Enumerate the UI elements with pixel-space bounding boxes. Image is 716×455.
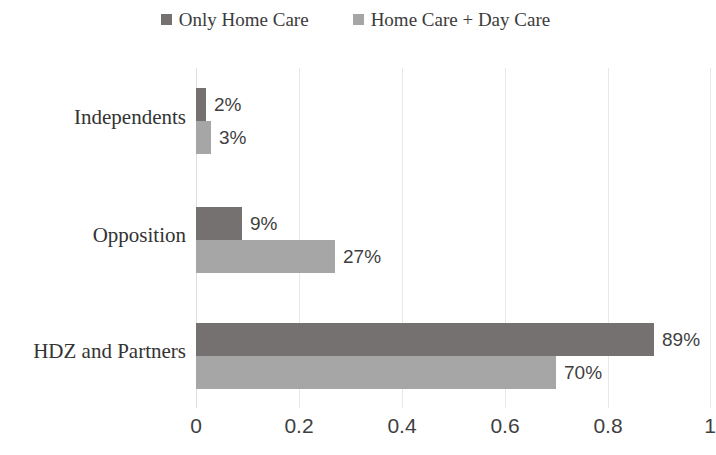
- bar-opposition-only-home-care: [196, 207, 242, 240]
- category-axis: Independents Opposition HDZ and Partners: [0, 68, 186, 408]
- x-tick-label: 0.8: [593, 414, 622, 438]
- bar-hdz-and-partners-home-care-plus-day-care: [196, 356, 556, 389]
- legend-label: Only Home Care: [179, 10, 309, 29]
- x-tick-label: 0: [190, 414, 202, 438]
- gridline: [608, 68, 609, 408]
- value-axis: 0 0.2 0.4 0.6 0.8 1: [196, 410, 711, 450]
- bar-label-opposition-home-care-plus-day-care: 27%: [335, 240, 381, 273]
- bar-label-independents-home-care-plus-day-care: 3%: [211, 121, 246, 154]
- bar-label-independents-only-home-care: 2%: [206, 88, 241, 121]
- bar-hdz-and-partners-only-home-care: [196, 323, 654, 356]
- category-label-independents: Independents: [0, 105, 186, 130]
- bar-independents-only-home-care: [196, 88, 206, 121]
- bar-independents-home-care-plus-day-care: [196, 121, 211, 154]
- category-label-opposition: Opposition: [0, 223, 186, 248]
- bar-label-hdz-and-partners-home-care-plus-day-care: 70%: [556, 356, 602, 389]
- gridline: [710, 68, 711, 408]
- x-tick-label: 0.6: [490, 414, 519, 438]
- legend-item-home-care-plus-day-care: Home Care + Day Care: [353, 10, 551, 29]
- category-label-hdz-and-partners: HDZ and Partners: [0, 339, 186, 364]
- x-tick-label: 0.4: [387, 414, 416, 438]
- legend-swatch-icon: [353, 14, 364, 25]
- x-tick-label: 0.2: [284, 414, 313, 438]
- chart-legend: Only Home Care Home Care + Day Care: [0, 4, 711, 34]
- legend-swatch-icon: [161, 14, 172, 25]
- legend-item-only-home-care: Only Home Care: [161, 10, 309, 29]
- x-tick-label: 1: [704, 414, 716, 438]
- bar-label-opposition-only-home-care: 9%: [242, 207, 277, 240]
- plot-area: 2% 3% 9% 27% 89% 70%: [196, 68, 711, 408]
- legend-label: Home Care + Day Care: [371, 10, 551, 29]
- bar-label-hdz-and-partners-only-home-care: 89%: [654, 323, 700, 356]
- bar-opposition-home-care-plus-day-care: [196, 240, 335, 273]
